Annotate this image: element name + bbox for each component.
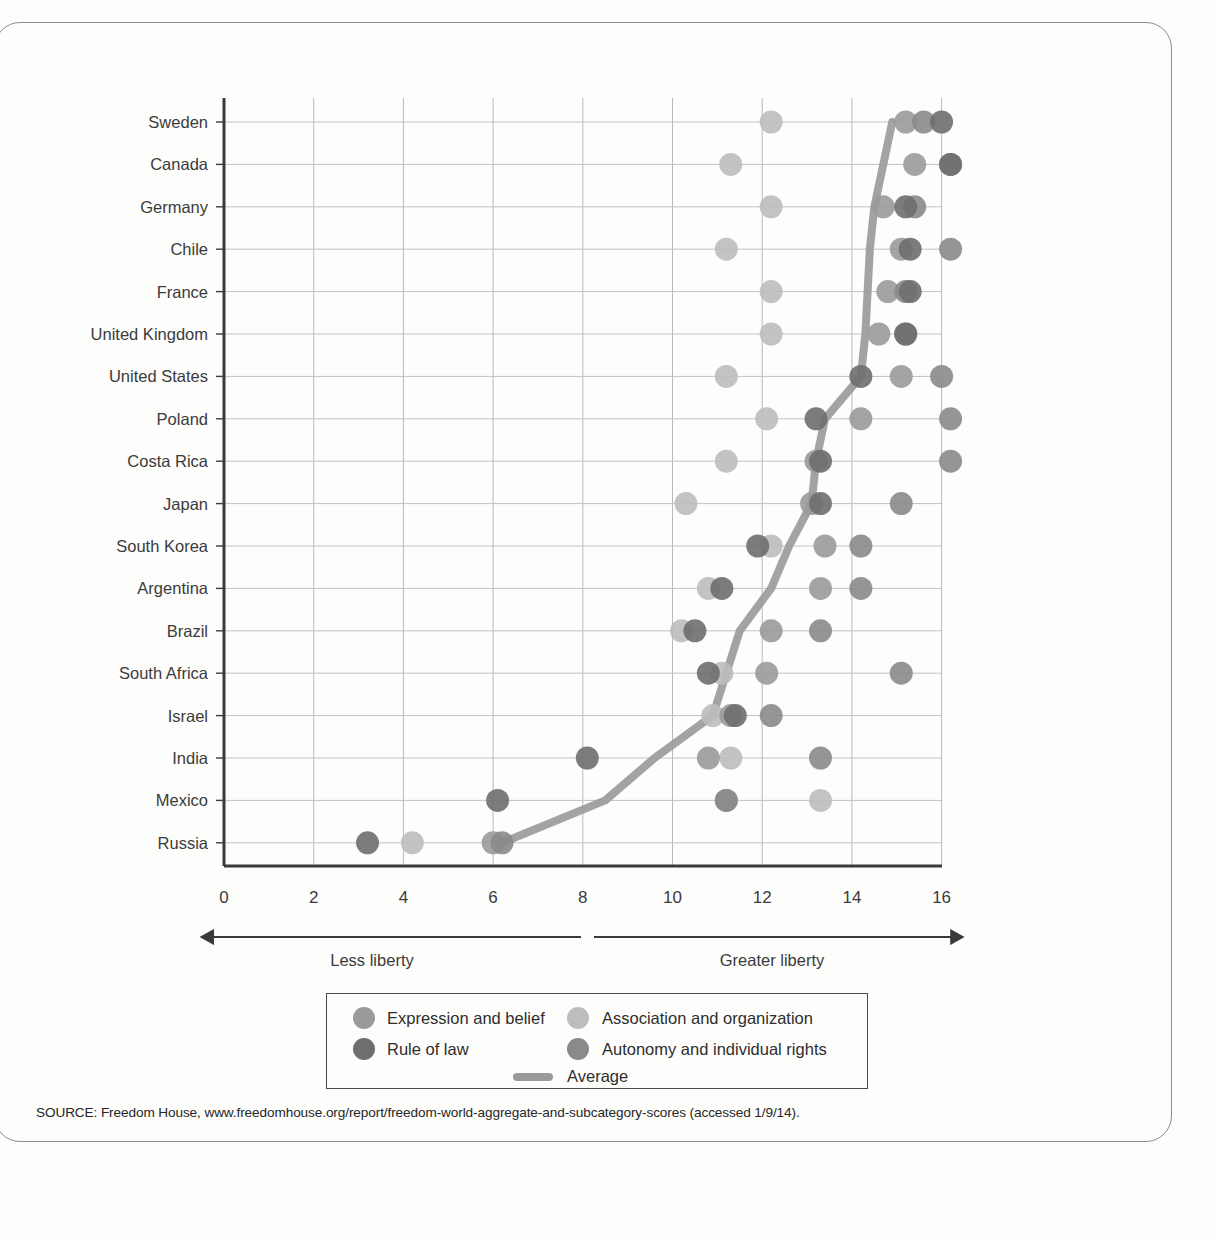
dot-association-sweden [760, 111, 783, 134]
y-label-poland: Poland [157, 410, 208, 428]
dot-association-canada [719, 153, 742, 176]
dot-expression-argentina [809, 577, 832, 600]
chart-legend: Expression and belief Association and or… [326, 993, 868, 1089]
legend-marker-rule-of-law [353, 1038, 375, 1060]
dot-rule_of_law-costa-rica [809, 450, 832, 473]
dot-rule_of_law-france [899, 280, 922, 303]
dot-autonomy-united-states [930, 365, 953, 388]
legend-marker-average [513, 1073, 553, 1081]
x-tick-label-6: 6 [488, 888, 497, 907]
x-tick-label-12: 12 [753, 888, 772, 907]
dot-association-united-states [715, 365, 738, 388]
y-label-france: France [157, 283, 208, 301]
x-tick-label-14: 14 [842, 888, 861, 907]
y-label-russia: Russia [158, 834, 209, 852]
y-label-india: India [172, 749, 209, 767]
page-background: SwedenCanadaGermanyChileFranceUnited Kin… [0, 0, 1215, 1239]
dot-rule_of_law-germany [894, 195, 917, 218]
average-polyline [502, 122, 892, 843]
x-tick-label-4: 4 [399, 888, 408, 907]
dot-expression-south-africa [755, 662, 778, 685]
dot-rule_of_law-mexico [486, 789, 509, 812]
dot-autonomy-south-africa [890, 662, 913, 685]
legend-contents: Expression and belief Association and or… [327, 994, 867, 1088]
dot-rule_of_law-south-africa [697, 662, 720, 685]
y-label-south-korea: South Korea [116, 537, 209, 555]
y-label-israel: Israel [168, 707, 208, 725]
dot-autonomy-russia [491, 831, 514, 854]
x-tick-label-2: 2 [309, 888, 318, 907]
legend-label-average: Average [567, 1067, 628, 1085]
dot-expression-canada [903, 153, 926, 176]
source-note: SOURCE: Freedom House, www.freedomhouse.… [36, 1105, 800, 1120]
dot-expression-germany [872, 195, 895, 218]
chart-gridlines [314, 98, 942, 866]
x-tick-label-16: 16 [932, 888, 951, 907]
average-line [502, 122, 892, 843]
dot-rule_of_law-canada [939, 153, 962, 176]
dot-expression-united-kingdom [867, 323, 890, 346]
liberty-direction-arrows: Less liberty Greater liberty [214, 937, 952, 969]
dot-association-india [719, 747, 742, 770]
dot-autonomy-israel [760, 704, 783, 727]
y-axis-category-labels: SwedenCanadaGermanyChileFranceUnited Kin… [91, 113, 209, 852]
x-tick-label-8: 8 [578, 888, 587, 907]
y-label-costa-rica: Costa Rica [127, 452, 209, 470]
dot-autonomy-poland [939, 407, 962, 430]
y-label-sweden: Sweden [148, 113, 208, 131]
dot-association-france [760, 280, 783, 303]
less-liberty-caption: Less liberty [330, 951, 414, 969]
y-label-united-states: United States [109, 367, 208, 385]
dot-association-russia [401, 831, 424, 854]
dot-association-poland [755, 407, 778, 430]
dot-rule_of_law-united-kingdom [894, 323, 917, 346]
dot-association-japan [674, 492, 697, 515]
y-label-germany: Germany [140, 198, 209, 216]
dot-expression-united-states [890, 365, 913, 388]
dot-rule_of_law-sweden [930, 111, 953, 134]
dot-association-costa-rica [715, 450, 738, 473]
legend-marker-expression [353, 1007, 375, 1029]
dot-autonomy-argentina [849, 577, 872, 600]
x-axis-tick-labels: 0246810121416 [219, 888, 951, 907]
dot-rule_of_law-brazil [683, 619, 706, 642]
dot-rule_of_law-united-states [849, 365, 872, 388]
chart-row-gridlines [216, 122, 942, 843]
dot-expression-brazil [760, 619, 783, 642]
dot-association-united-kingdom [760, 323, 783, 346]
dot-rule_of_law-russia [356, 831, 379, 854]
dot-autonomy-chile [939, 238, 962, 261]
dot-autonomy-south-korea [849, 535, 872, 558]
y-label-south-africa: South Africa [119, 664, 209, 682]
legend-marker-autonomy [567, 1038, 589, 1060]
y-label-united-kingdom: United Kingdom [91, 325, 208, 343]
dot-rule_of_law-argentina [710, 577, 733, 600]
dot-rule_of_law-chile [899, 238, 922, 261]
dot-autonomy-mexico [715, 789, 738, 812]
dot-association-mexico [809, 789, 832, 812]
dot-rule_of_law-japan [809, 492, 832, 515]
x-tick-label-10: 10 [663, 888, 682, 907]
dot-association-chile [715, 238, 738, 261]
y-label-chile: Chile [170, 240, 208, 258]
dot-autonomy-brazil [809, 619, 832, 642]
y-label-mexico: Mexico [156, 791, 208, 809]
dot-rule_of_law-israel [724, 704, 747, 727]
y-label-japan: Japan [163, 495, 208, 513]
legend-label-rule-of-law: Rule of law [387, 1040, 469, 1058]
dot-autonomy-japan [890, 492, 913, 515]
y-label-brazil: Brazil [167, 622, 208, 640]
dot-expression-south-korea [813, 535, 836, 558]
legend-marker-association [567, 1007, 589, 1029]
dot-association-germany [760, 195, 783, 218]
dot-rule_of_law-india [576, 747, 599, 770]
dot-expression-india [697, 747, 720, 770]
dot-rule_of_law-poland [805, 407, 828, 430]
y-label-canada: Canada [150, 155, 209, 173]
x-tick-label-0: 0 [219, 888, 228, 907]
chart-figure: SwedenCanadaGermanyChileFranceUnited Kin… [0, 0, 1215, 1239]
y-label-argentina: Argentina [137, 579, 208, 597]
dot-autonomy-india [809, 747, 832, 770]
dot-autonomy-costa-rica [939, 450, 962, 473]
dot-rule_of_law-south-korea [746, 535, 769, 558]
